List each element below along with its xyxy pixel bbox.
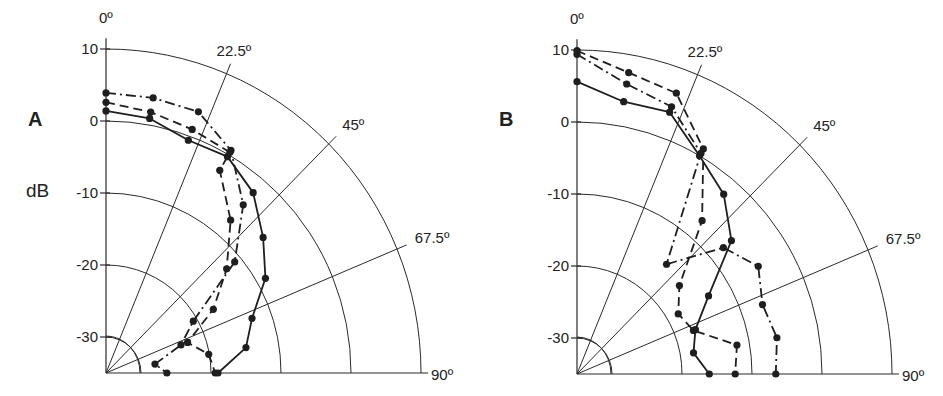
angle-label: 0º bbox=[570, 10, 584, 27]
data-point bbox=[223, 265, 230, 272]
data-point bbox=[623, 80, 630, 87]
data-point bbox=[666, 109, 673, 116]
data-point bbox=[185, 137, 192, 144]
series-line-solid bbox=[577, 82, 731, 374]
angle-label: 90º bbox=[431, 366, 454, 383]
radial-tick-label: 0 bbox=[90, 112, 98, 129]
data-point bbox=[732, 370, 739, 377]
series-line-dashed bbox=[577, 51, 737, 374]
data-point bbox=[676, 282, 683, 289]
data-point bbox=[733, 341, 740, 348]
data-point bbox=[250, 189, 257, 196]
angle-spoke bbox=[577, 246, 878, 374]
data-point bbox=[696, 152, 703, 159]
data-point bbox=[189, 126, 196, 133]
radial-tick-label: 0 bbox=[561, 113, 569, 130]
data-point bbox=[242, 344, 249, 351]
data-point bbox=[151, 361, 158, 368]
data-point bbox=[573, 51, 580, 58]
radial-tick-label: -20 bbox=[76, 256, 98, 273]
angle-label: 90º bbox=[902, 367, 925, 384]
data-point bbox=[698, 217, 705, 224]
data-point bbox=[190, 318, 197, 325]
data-point bbox=[663, 261, 670, 268]
data-point bbox=[690, 349, 697, 356]
data-point bbox=[102, 107, 109, 114]
data-point bbox=[227, 217, 234, 224]
data-point bbox=[102, 89, 109, 96]
data-point bbox=[214, 369, 221, 376]
radial-tick-label: -30 bbox=[547, 329, 569, 346]
angle-spoke bbox=[106, 245, 407, 373]
radial-tick-label: -20 bbox=[547, 257, 569, 274]
data-point bbox=[231, 258, 238, 265]
panel-label: A bbox=[28, 108, 42, 130]
angle-label: 67.5º bbox=[415, 229, 450, 246]
data-point bbox=[240, 201, 247, 208]
data-point bbox=[248, 315, 255, 322]
radial-tick-label: 10 bbox=[552, 41, 569, 58]
data-point bbox=[146, 115, 153, 122]
data-point bbox=[102, 99, 109, 106]
data-point bbox=[720, 191, 727, 198]
radial-tick-label: -30 bbox=[76, 328, 98, 345]
polar-charts: 100-10-20-300º22.5º45º67.5º90ºAdB 100-10… bbox=[0, 0, 943, 396]
data-point bbox=[759, 301, 766, 308]
angle-label: 0º bbox=[99, 9, 113, 26]
polar-panel-b: 100-10-20-300º22.5º45º67.5º90ºB bbox=[499, 10, 925, 384]
data-point bbox=[675, 310, 682, 317]
angle-label: 67.5º bbox=[886, 230, 921, 247]
angle-label: 22.5º bbox=[217, 42, 252, 59]
data-point bbox=[210, 306, 217, 313]
angle-label: 22.5º bbox=[688, 43, 723, 60]
data-point bbox=[573, 78, 580, 85]
data-point bbox=[728, 237, 735, 244]
radial-tick-label: 10 bbox=[81, 40, 98, 57]
data-point bbox=[195, 108, 202, 115]
data-point bbox=[692, 326, 699, 333]
data-point bbox=[262, 275, 269, 282]
angle-spoke bbox=[106, 64, 231, 373]
angle-spoke bbox=[577, 65, 702, 374]
data-point bbox=[260, 234, 267, 241]
data-point bbox=[673, 90, 680, 97]
series-line-dash-dot bbox=[577, 54, 777, 374]
panel-label: B bbox=[499, 108, 513, 130]
data-point bbox=[706, 370, 713, 377]
data-point bbox=[150, 94, 157, 101]
data-point bbox=[620, 98, 627, 105]
series-line-dashed bbox=[106, 102, 231, 373]
data-point bbox=[163, 369, 170, 376]
series-line-solid bbox=[106, 111, 265, 373]
data-point bbox=[147, 108, 154, 115]
data-point bbox=[625, 69, 632, 76]
data-point bbox=[720, 244, 727, 251]
angle-spoke bbox=[577, 137, 807, 374]
data-point bbox=[184, 339, 191, 346]
data-point bbox=[705, 292, 712, 299]
data-point bbox=[177, 341, 184, 348]
data-point bbox=[224, 153, 231, 160]
radial-tick-label: -10 bbox=[76, 184, 98, 201]
radial-tick-label: -10 bbox=[547, 185, 569, 202]
data-point bbox=[205, 351, 212, 358]
data-point bbox=[216, 167, 223, 174]
angle-label: 45º bbox=[813, 117, 836, 134]
unit-label: dB bbox=[26, 180, 49, 201]
data-point bbox=[772, 370, 779, 377]
angle-label: 45º bbox=[342, 116, 365, 133]
data-point bbox=[755, 263, 762, 270]
polar-panel-a: 100-10-20-300º22.5º45º67.5º90ºAdB bbox=[26, 9, 454, 383]
series-line-dash-dot bbox=[106, 93, 243, 373]
data-point bbox=[773, 334, 780, 341]
